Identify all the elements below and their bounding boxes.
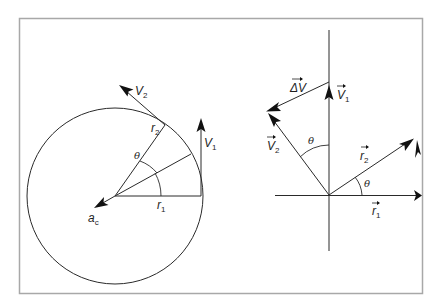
label-r1: r1: [157, 198, 166, 214]
arrowhead-icon: [266, 102, 281, 112]
label-v1: V1: [204, 136, 217, 152]
label-theta-bottom: θ: [364, 178, 370, 189]
label-r2: r2: [151, 121, 160, 137]
svg-text:V1: V1: [337, 88, 350, 104]
arrowhead-icon: [399, 139, 414, 152]
svg-text:r1: r1: [372, 204, 381, 220]
radius-mid-line: [115, 154, 191, 196]
arrowhead-icon: [94, 197, 109, 208]
svg-text:ΔV: ΔV: [289, 81, 307, 95]
theta-arc-outer: [155, 173, 161, 196]
label-theta-top: θ: [308, 135, 314, 146]
svg-text:r2: r2: [360, 149, 369, 165]
left-diagram: V2 r2 V1 θ r1 ac: [27, 84, 217, 284]
theta-arc-bottom: [355, 177, 362, 195]
label-r1-vec: r1: [372, 201, 381, 220]
label-delta-v: ΔV: [289, 77, 307, 95]
theta-arc-top: [300, 145, 329, 157]
theta-arc-inner: [140, 161, 157, 173]
label-theta: θ: [134, 150, 140, 161]
label-r2-vec: r2: [360, 145, 369, 165]
label-v2: V2: [135, 84, 148, 100]
label-v2-vec: V2: [267, 135, 280, 155]
right-diagram: ΔV V1 V2 θ r2 θ r1: [266, 30, 422, 251]
arrowhead-icon: [415, 140, 421, 158]
velocity-v2-line: [271, 117, 329, 195]
svg-text:V2: V2: [267, 139, 280, 155]
arrowhead-icon: [119, 85, 134, 97]
label-v1-vec: V1: [337, 84, 350, 104]
arrowhead-icon: [268, 113, 281, 127]
label-ac: ac: [88, 211, 99, 227]
circular-motion-diagram: V2 r2 V1 θ r1 ac ΔV: [0, 0, 440, 304]
